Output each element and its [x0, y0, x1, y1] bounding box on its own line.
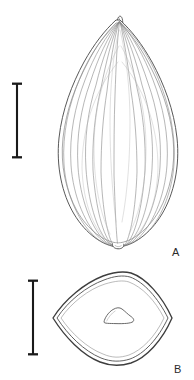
- panel-label-a: A: [172, 247, 180, 258]
- figure-plate: A B: [0, 0, 194, 380]
- panel-label-b: B: [174, 364, 182, 375]
- fruit-outline-outer: [58, 20, 178, 247]
- figure-b-seed-section: [53, 272, 172, 365]
- figure-a-fruit: [58, 16, 178, 249]
- fruit-base-knob: [112, 244, 123, 249]
- scalebar-b: [28, 280, 38, 355]
- scalebar-a: [12, 83, 22, 158]
- illustration-canvas: [0, 0, 194, 380]
